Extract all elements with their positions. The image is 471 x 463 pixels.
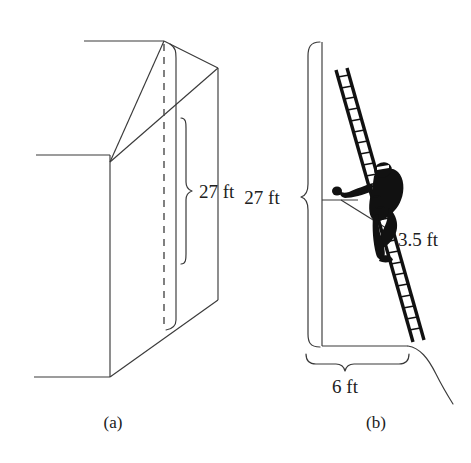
wall-a-front-bottom-diagonal	[110, 300, 218, 377]
dimension-brace-a	[181, 118, 192, 264]
ground-curve-right	[408, 346, 453, 404]
height-label-a: 27 ft	[199, 181, 235, 202]
panel-b-drawing: 27 ft 6 ft	[244, 42, 453, 432]
dimension-brace-b-height	[301, 42, 320, 347]
technical-figure: 27 ft (a) 27 ft 6 ft	[0, 0, 471, 463]
figure-container: 27 ft (a) 27 ft 6 ft	[0, 0, 471, 463]
height-label-b: 27 ft	[244, 187, 280, 208]
dimension-brace-base	[306, 354, 409, 371]
wall-a-top-left-slope	[110, 41, 164, 162]
base-label: 6 ft	[332, 376, 359, 397]
panel-a-drawing: 27 ft (a)	[34, 41, 235, 432]
ladder-offset-label: 3.5 ft	[398, 229, 439, 250]
wall-a-slab-near-edge	[166, 44, 176, 330]
climber-hand	[332, 187, 342, 196]
caption-a: (a)	[104, 413, 123, 432]
climber-arm-reaching	[340, 183, 373, 198]
caption-b: (b)	[366, 413, 386, 432]
climber-foot	[379, 255, 393, 262]
